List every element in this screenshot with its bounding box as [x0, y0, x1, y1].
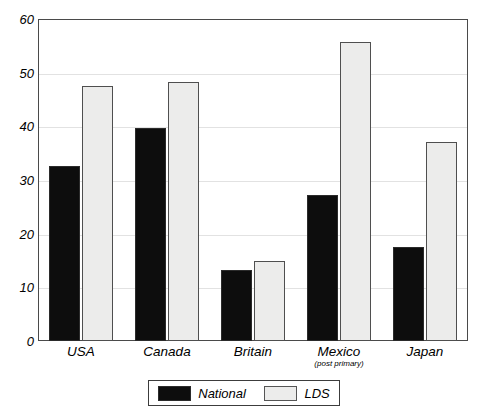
y-axis-tick-label: 20 [4, 227, 34, 240]
bar-mexico-national [307, 195, 338, 341]
x-axis: USACanadaBritainMexico(post primary)Japa… [38, 345, 468, 377]
y-axis-tick-label: 60 [4, 13, 34, 26]
y-axis-tick-label: 30 [4, 174, 34, 187]
x-axis-group-label: USA [38, 345, 124, 359]
y-axis-tick-label: 40 [4, 120, 34, 133]
bar-japan-lds [426, 142, 457, 341]
y-axis: 6050403020100 [0, 0, 34, 414]
bar-canada-national [135, 128, 166, 341]
y-axis-tick-label: 0 [4, 335, 34, 348]
x-axis-group-name: Mexico [318, 344, 361, 359]
x-axis-group-name: Japan [407, 344, 444, 359]
y-axis-tick-label: 10 [4, 281, 34, 294]
x-axis-group-label: Japan [382, 345, 468, 359]
x-axis-group-name: Canada [143, 344, 190, 359]
legend-swatch-lds [264, 386, 297, 401]
legend-entry-national: National [158, 386, 246, 401]
legend-label: National [198, 386, 246, 401]
x-axis-group-label: Mexico(post primary) [296, 345, 382, 369]
bar-japan-national [393, 247, 424, 341]
x-axis-group-name: USA [67, 344, 95, 359]
y-axis-tick-label: 50 [4, 66, 34, 79]
legend-entry-lds: LDS [264, 386, 329, 401]
x-axis-group-sublabel: (post primary) [296, 360, 382, 368]
bar-britain-national [221, 270, 252, 341]
bar-usa-lds [82, 86, 113, 341]
x-axis-group-name: Britain [234, 344, 272, 359]
x-axis-group-label: Canada [124, 345, 210, 359]
bars-layer [38, 19, 468, 341]
bar-canada-lds [168, 82, 199, 341]
x-axis-group-label: Britain [210, 345, 296, 359]
chart-legend: NationalLDS [148, 380, 340, 406]
legend-swatch-national [158, 386, 191, 401]
bar-chart: 6050403020100 USACanadaBritainMexico(pos… [0, 0, 477, 414]
bar-britain-lds [254, 261, 285, 341]
legend-label: LDS [304, 386, 329, 401]
bar-usa-national [49, 166, 80, 341]
bar-mexico-lds [340, 42, 371, 341]
